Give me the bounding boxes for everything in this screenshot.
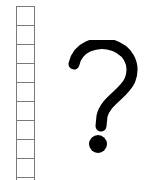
grid-cell	[16, 6, 35, 25]
grid-cell	[16, 63, 35, 82]
grid-cell	[16, 120, 35, 139]
question-mark-icon	[66, 40, 140, 156]
grid-cell	[16, 158, 35, 177]
grid-cell	[16, 101, 35, 120]
grid-cell	[16, 139, 35, 158]
grid-cell	[16, 44, 35, 63]
grid-cell	[16, 82, 35, 101]
grid-cell	[16, 25, 35, 44]
grid-column	[16, 6, 35, 180]
grid-cell	[16, 177, 35, 180]
